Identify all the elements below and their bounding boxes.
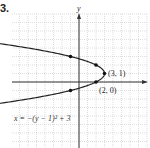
data-point bbox=[103, 72, 107, 76]
graph: y (3, 1) (2, 0) x = −(y − 1)² + 3 bbox=[0, 0, 150, 148]
y-axis-label: y bbox=[76, 4, 81, 13]
data-point bbox=[94, 63, 98, 67]
x-intercept-label: (2, 0) bbox=[99, 86, 117, 95]
data-point bbox=[69, 55, 73, 59]
data-point bbox=[69, 89, 73, 93]
data-point bbox=[94, 80, 98, 84]
vertex-label: (3, 1) bbox=[108, 69, 126, 78]
grid bbox=[12, 14, 148, 148]
equation-label: x = −(y − 1)² + 3 bbox=[13, 114, 70, 123]
